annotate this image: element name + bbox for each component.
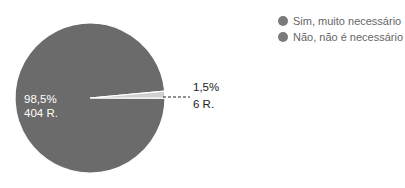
legend-dot-icon bbox=[278, 16, 288, 26]
minor-slice-label: 1,5% 6 R. bbox=[193, 80, 219, 111]
major-slice-percent: 98,5% bbox=[24, 92, 58, 106]
minor-slice-count: 6 R. bbox=[193, 97, 219, 111]
minor-slice-percent: 1,5% bbox=[193, 80, 219, 94]
legend-label: Sim, muito necessário bbox=[293, 15, 401, 27]
major-slice-label: 98,5% 404 R. bbox=[24, 92, 58, 120]
legend-item-nao[interactable]: Não, não é necessário bbox=[278, 29, 403, 45]
legend-label: Não, não é necessário bbox=[293, 31, 403, 43]
chart-legend: Sim, muito necessário Não, não é necessá… bbox=[278, 13, 403, 45]
legend-item-sim[interactable]: Sim, muito necessário bbox=[278, 13, 403, 29]
legend-dot-icon bbox=[278, 32, 288, 42]
major-slice-count: 404 R. bbox=[24, 106, 58, 120]
